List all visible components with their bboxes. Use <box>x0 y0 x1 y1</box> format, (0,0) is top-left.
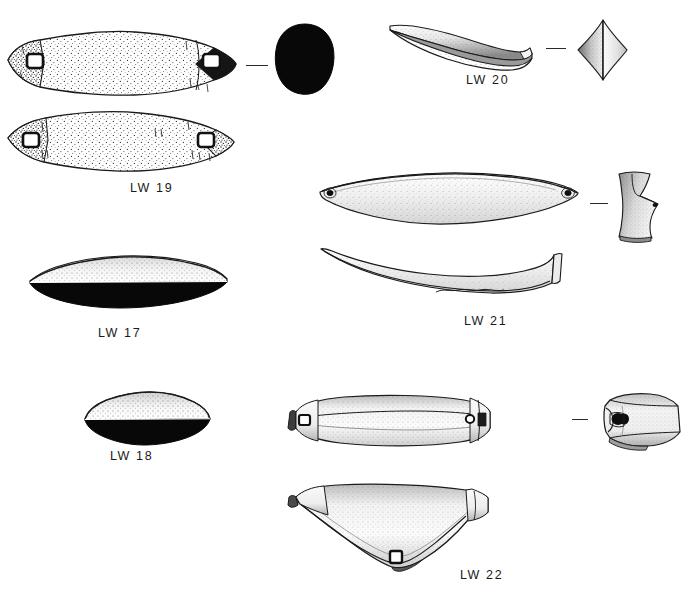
figure-lw19-cross-section <box>272 22 342 102</box>
figure-lw22-end-view <box>588 388 688 460</box>
label-lw19: LW 19 <box>130 181 173 195</box>
figure-lw19 <box>0 10 250 180</box>
figure-lw21 <box>316 172 606 317</box>
label-lw22: LW 22 <box>460 568 503 582</box>
label-lw21: LW 21 <box>464 314 507 328</box>
label-lw20: LW 20 <box>466 73 509 87</box>
lw21-plan-view <box>320 173 578 224</box>
figure-lw21-cross-section <box>610 168 684 246</box>
figure-lw20-cross-section <box>572 16 634 86</box>
lw19-plan-view-upper <box>8 31 236 95</box>
lw22-plan-view <box>288 395 490 446</box>
figure-lw20 <box>385 8 565 78</box>
label-lw17: LW 17 <box>98 326 141 340</box>
lw22-section-connector <box>572 419 588 420</box>
label-lw18: LW 18 <box>110 449 153 463</box>
lw21-section-connector <box>590 203 608 204</box>
lw20-profile-view <box>390 25 532 70</box>
figure-lw17 <box>26 252 231 312</box>
lw19-plan-view-lower <box>8 112 234 172</box>
lw19-section-connector <box>246 65 268 66</box>
lw22-profile-view <box>288 484 488 571</box>
lw20-section-connector <box>546 48 566 49</box>
lw21-profile-view <box>321 249 562 293</box>
figure-lw18 <box>82 390 212 446</box>
artifact-plate: LW 19 <box>0 0 690 596</box>
figure-lw22 <box>282 386 582 566</box>
